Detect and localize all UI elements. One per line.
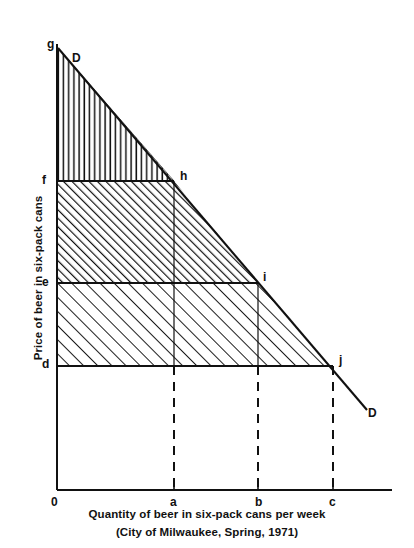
demand-curve-plot <box>0 0 414 548</box>
region-surplus-band-lower <box>58 283 333 366</box>
point-label-g: g <box>47 38 54 50</box>
demand-diagram-figure: g f e d h i j D D 0 a b c Price of beer … <box>0 0 414 548</box>
demand-curve-label-top: D <box>72 52 81 64</box>
x-axis-caption: Quantity of beer in six-pack cans per we… <box>0 505 414 541</box>
point-label-i: i <box>263 271 266 283</box>
x-axis-title: Quantity of beer in six-pack cans per we… <box>0 505 414 523</box>
point-label-j: j <box>339 354 342 366</box>
demand-curve-label-bottom: D <box>368 407 377 419</box>
region-surplus-band-middle <box>58 181 258 283</box>
x-axis-subtitle: (City of Milwaukee, Spring, 1971) <box>0 523 414 541</box>
point-label-h: h <box>180 170 187 182</box>
y-axis-title: Price of beer in six-pack cans <box>32 163 44 393</box>
